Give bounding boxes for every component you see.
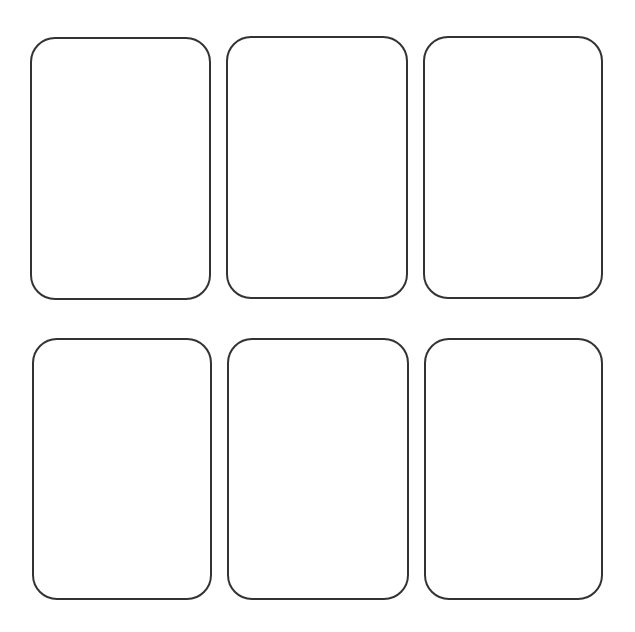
blank-card-1: [30, 37, 211, 300]
blank-card-6: [424, 338, 603, 600]
blank-card-2: [226, 36, 408, 299]
blank-card-3: [423, 36, 603, 299]
blank-card-4: [32, 338, 212, 600]
blank-card-5: [227, 338, 409, 600]
